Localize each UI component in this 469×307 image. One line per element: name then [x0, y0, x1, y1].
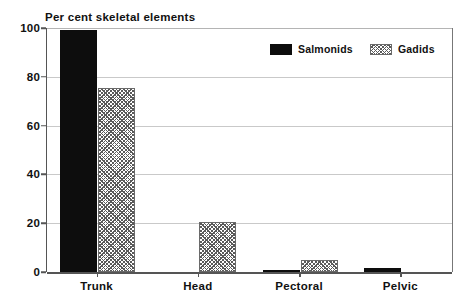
- y-tick-mark: [41, 76, 46, 78]
- grid-line: [47, 28, 452, 29]
- x-tick-mark: [400, 272, 402, 277]
- y-tick-label: 60: [2, 120, 40, 132]
- y-tick-mark: [41, 174, 46, 176]
- y-tick-label: 40: [2, 168, 40, 180]
- grid-line: [47, 77, 452, 78]
- x-tick-mark: [299, 272, 301, 277]
- x-tick-label: Pectoral: [275, 280, 323, 292]
- legend-label: Salmonids: [298, 43, 353, 55]
- chart-legend: SalmonidsGadids: [270, 43, 435, 55]
- y-tick-label: 80: [2, 71, 40, 83]
- bar: [263, 270, 300, 272]
- chart-title: Per cent skeletal elements: [45, 11, 195, 23]
- bar: [301, 260, 338, 272]
- x-tick-label: Pelvic: [383, 280, 418, 292]
- y-tick-mark: [41, 222, 46, 224]
- legend-swatch: [370, 44, 392, 55]
- bar: [364, 268, 401, 272]
- legend-entry: Salmonids: [270, 43, 353, 55]
- bar-chart: Per cent skeletal elements 020406080100 …: [0, 0, 469, 307]
- legend-label: Gadids: [398, 43, 435, 55]
- x-tick-mark: [198, 272, 200, 277]
- y-tick-label: 0: [2, 266, 40, 278]
- axis-baseline: [47, 272, 452, 274]
- y-tick-label: 20: [2, 217, 40, 229]
- y-tick-mark: [41, 271, 46, 273]
- legend-entry: Gadids: [370, 43, 435, 55]
- bar: [60, 30, 97, 272]
- bar: [98, 88, 135, 272]
- legend-swatch: [270, 44, 292, 55]
- y-tick-mark: [41, 125, 46, 127]
- y-tick-label: 100: [2, 22, 40, 34]
- bar: [199, 222, 236, 272]
- x-tick-label: Trunk: [80, 280, 113, 292]
- x-tick-mark: [97, 272, 99, 277]
- x-tick-label: Head: [183, 280, 212, 292]
- y-tick-mark: [41, 27, 46, 29]
